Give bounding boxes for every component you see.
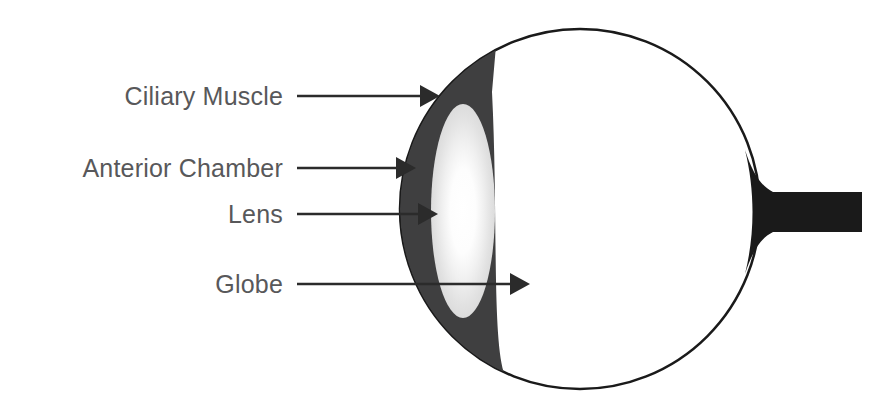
optic-nerve [745,150,862,274]
label-anterior-chamber: Anterior Chamber [82,154,283,182]
label-text-group: Ciliary MuscleAnterior ChamberLensGlobe [82,82,283,298]
optic-nerve-group [745,150,862,274]
label-lens: Lens [228,200,283,228]
label-globe: Globe [215,270,283,298]
diagram-canvas: Ciliary MuscleAnterior ChamberLensGlobe [0,0,890,418]
label-ciliary-muscle: Ciliary Muscle [125,82,283,110]
lens-group [431,104,495,318]
eye-anatomy-diagram: Ciliary MuscleAnterior ChamberLensGlobe [0,0,890,418]
lens-body [431,104,495,318]
